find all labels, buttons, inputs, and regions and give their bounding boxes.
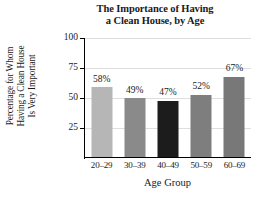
- y-tick-mark: [80, 128, 84, 129]
- chart-title: The Importance of Having a Clean House, …: [60, 3, 250, 27]
- y-tick-label: 50: [69, 93, 79, 103]
- bar-value-label: 52%: [192, 82, 209, 92]
- x-tick-label: 60–69: [224, 161, 246, 170]
- bar-chart-figure: The Importance of Having a Clean House, …: [0, 0, 259, 202]
- bar-value-label: 49%: [126, 86, 143, 96]
- x-axis-title: Age Group: [84, 178, 251, 189]
- y-tick-label: 75: [69, 63, 79, 73]
- bar-group: 52%: [185, 37, 218, 157]
- x-axis-line: [84, 157, 251, 158]
- bar-group: 49%: [118, 37, 151, 157]
- bar: [224, 77, 245, 157]
- bar-group: 58%: [85, 37, 118, 157]
- bar-value-label: 47%: [159, 88, 176, 98]
- bar-group: 47%: [151, 37, 184, 157]
- x-tick-label: 30–39: [124, 161, 146, 170]
- bar-value-label: 58%: [93, 75, 110, 85]
- bar-series: 58%49%47%52%67%: [85, 37, 251, 157]
- x-tick-label: 20–29: [91, 161, 113, 170]
- bar: [124, 98, 145, 157]
- chart-title-line-1: The Importance of Having: [60, 3, 250, 15]
- bar: [191, 95, 212, 157]
- y-tick-label: 100: [64, 33, 78, 43]
- x-tick-label: 40–49: [157, 161, 179, 170]
- bar: [91, 87, 112, 157]
- chart-title-line-2: a Clean House, by Age: [60, 15, 250, 27]
- bar-value-label: 67%: [226, 64, 243, 74]
- y-tick-mark: [80, 38, 84, 39]
- plot-area: 255075100 58%49%47%52%67%: [84, 38, 251, 158]
- x-axis-ticks: 20–2930–3940–4950–5960–69: [85, 161, 251, 175]
- y-axis-title: Percentage for Whom Having a Clean House…: [5, 23, 45, 149]
- y-axis-title-line-2: Having a Clean House: [16, 23, 27, 149]
- y-tick-mark: [80, 68, 84, 69]
- bar: [157, 101, 178, 157]
- y-tick-label: 25: [69, 123, 79, 133]
- y-axis-title-line-1: Percentage for Whom: [5, 23, 16, 149]
- bar-group: 67%: [218, 37, 251, 157]
- y-axis-title-line-3: Is Very Important: [27, 23, 38, 149]
- x-tick-label: 50–59: [190, 161, 212, 170]
- y-tick-mark: [80, 98, 84, 99]
